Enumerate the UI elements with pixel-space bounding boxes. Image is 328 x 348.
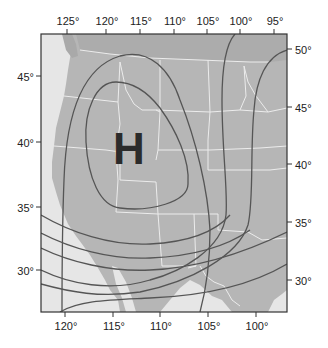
bottom-lon-label-115: 115° [103, 321, 125, 332]
top-lon-label-115: 115° [130, 16, 152, 27]
right-lat-label-35: 35° [295, 218, 312, 229]
right-lat-label-40: 40° [295, 160, 312, 171]
right-lat-label-50: 50° [295, 45, 312, 56]
top-lon-label-120: 120° [96, 16, 119, 27]
top-lon-label-125: 125° [57, 16, 80, 27]
top-lon-label-110: 110° [164, 16, 186, 27]
right-lat-label-30: 30° [295, 276, 312, 287]
bottom-axis-ticks [65, 312, 256, 317]
top-axis-ticks [67, 29, 274, 34]
left-axis-ticks [36, 76, 41, 270]
right-axis-ticks [287, 49, 292, 280]
bottom-lon-label-105: 105° [198, 321, 221, 332]
top-lon-label-100: 100° [230, 16, 253, 27]
left-lat-label-30: 30° [4, 266, 34, 277]
top-lon-label-95: 95° [267, 16, 284, 27]
right-lat-label-45: 45° [295, 103, 312, 114]
bottom-lon-label-110: 110° [150, 321, 172, 332]
left-lat-label-40: 40° [4, 138, 34, 149]
weather-map: H [0, 0, 328, 348]
high-pressure-label: H [113, 124, 145, 173]
bottom-lon-label-120: 120° [55, 321, 78, 332]
top-lon-label-105: 105° [197, 16, 220, 27]
left-lat-label-45: 45° [4, 72, 34, 83]
bottom-lon-label-100: 100° [246, 321, 269, 332]
left-lat-label-35: 35° [4, 203, 34, 214]
